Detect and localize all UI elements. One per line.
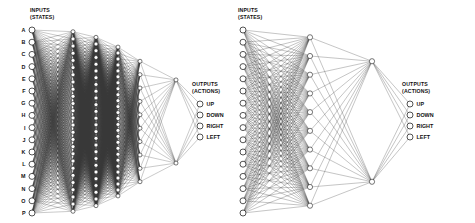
- hidden-node: [307, 203, 312, 208]
- hidden-node: [116, 176, 120, 180]
- hidden-node: [71, 159, 75, 163]
- connection-edge: [310, 61, 372, 131]
- hidden-node: [71, 58, 75, 62]
- hidden-node: [307, 72, 312, 77]
- hidden-node: [94, 170, 98, 174]
- hidden-node: [138, 86, 142, 90]
- hidden-node: [116, 140, 120, 144]
- hidden-node: [71, 202, 75, 206]
- hidden-node: [116, 134, 120, 138]
- output-label-left: LEFT: [207, 134, 221, 140]
- hidden-node: [71, 87, 75, 91]
- hidden-node: [71, 166, 75, 170]
- input-node: [240, 76, 246, 82]
- hidden-node: [94, 49, 98, 53]
- connection-edge: [372, 137, 410, 182]
- hidden-node: [174, 78, 178, 82]
- hidden-node: [138, 166, 142, 170]
- outputs-caption-line2: (ACTIONS): [402, 88, 430, 94]
- connection-edge: [310, 168, 372, 181]
- connection-edge: [140, 80, 176, 155]
- input-node: [240, 112, 246, 118]
- hidden-node: [94, 69, 98, 73]
- hidden-node: [94, 197, 98, 201]
- input-node: [240, 39, 246, 45]
- hidden-node: [116, 170, 120, 174]
- connection-edge: [140, 80, 176, 168]
- input-node: [240, 88, 246, 94]
- hidden-node: [116, 63, 120, 67]
- connection-edge: [310, 37, 372, 181]
- hidden-node: [307, 53, 312, 58]
- input-node: [29, 125, 35, 131]
- output-node: [197, 112, 203, 118]
- hidden-node: [71, 66, 75, 70]
- outputs-caption-line1: OUTPUTS: [192, 81, 218, 87]
- hidden-node: [71, 73, 75, 77]
- hidden-node: [71, 37, 75, 41]
- hidden-node: [116, 128, 120, 132]
- input-label-i: I: [24, 125, 26, 131]
- hidden-node: [94, 42, 98, 46]
- hidden-node: [116, 194, 120, 198]
- input-node: [240, 100, 246, 106]
- input-label-c: C: [22, 51, 26, 57]
- layer-3-nodes: [407, 101, 413, 140]
- hidden-node: [369, 59, 374, 64]
- hidden-node: [94, 89, 98, 93]
- hidden-node: [138, 153, 142, 157]
- network-diagram-canvas: ABCDEFGHIJKLMNOPUPDOWNRIGHTLEFTINPUTS(ST…: [0, 0, 475, 223]
- input-label-n: N: [22, 186, 26, 192]
- hidden-node: [116, 146, 120, 150]
- input-node: [240, 64, 246, 70]
- hidden-node: [116, 164, 120, 168]
- input-label-b: B: [22, 39, 26, 45]
- hidden-node: [71, 44, 75, 48]
- connection-edge: [243, 30, 310, 37]
- edge-group: [243, 30, 410, 213]
- inputs-caption-line1: INPUTS: [238, 7, 258, 13]
- input-label-a: A: [22, 27, 26, 33]
- connection-edge: [372, 115, 410, 182]
- output-node: [407, 134, 413, 140]
- hidden-node: [94, 190, 98, 194]
- hidden-node: [71, 181, 75, 185]
- input-node: [240, 186, 246, 192]
- input-node: [240, 173, 246, 179]
- input-label-g: G: [21, 100, 25, 106]
- hidden-node: [116, 122, 120, 126]
- hidden-node: [116, 158, 120, 162]
- hidden-node: [138, 99, 142, 103]
- connection-edge: [372, 104, 410, 182]
- input-node: [29, 186, 35, 192]
- input-label-j: J: [23, 137, 26, 143]
- output-node: [197, 101, 203, 107]
- connection-edge: [140, 80, 176, 182]
- connection-edge: [310, 182, 372, 206]
- hidden-node: [94, 136, 98, 140]
- hidden-node: [116, 152, 120, 156]
- hidden-node: [138, 140, 142, 144]
- input-node: [240, 149, 246, 155]
- hidden-node: [71, 109, 75, 113]
- layer-2-nodes: [369, 59, 374, 185]
- hidden-node: [138, 126, 142, 130]
- hidden-node: [71, 188, 75, 192]
- input-node: [29, 88, 35, 94]
- connection-edge: [176, 137, 200, 163]
- edge-group: [32, 30, 200, 213]
- hidden-node: [94, 96, 98, 100]
- network-right: UPDOWNRIGHTLEFTINPUTS(STATES)OUTPUTS(ACT…: [238, 7, 434, 216]
- hidden-node: [71, 94, 75, 98]
- hidden-node: [116, 51, 120, 55]
- hidden-node: [116, 75, 120, 79]
- hidden-node: [71, 173, 75, 177]
- hidden-node: [71, 137, 75, 141]
- hidden-node: [71, 30, 75, 34]
- output-label-down: DOWN: [417, 112, 434, 118]
- connection-edge: [372, 61, 410, 137]
- connection-edge: [310, 131, 372, 182]
- hidden-node: [94, 130, 98, 134]
- hidden-node: [71, 123, 75, 127]
- hidden-node: [71, 195, 75, 199]
